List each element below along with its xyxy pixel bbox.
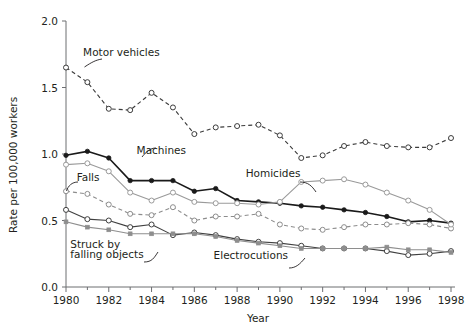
series-motor-vehicles <box>64 65 454 160</box>
injury-rate-line-chart: 0.00.51.01.52.0 198019821984198619881990… <box>0 0 471 330</box>
x-axis-title: Year <box>246 312 270 324</box>
annotation-label: Electrocutions <box>214 249 288 261</box>
data-point <box>406 145 411 150</box>
data-point <box>299 247 303 251</box>
data-point <box>107 156 111 160</box>
data-point <box>64 65 69 70</box>
data-point <box>150 232 154 236</box>
data-point <box>363 182 368 187</box>
data-point <box>406 198 411 203</box>
annotation-label: Motor vehicles <box>83 46 160 58</box>
y-tick-label: 0.5 <box>41 215 58 227</box>
data-point <box>277 199 282 204</box>
data-point <box>427 145 432 150</box>
data-point <box>363 222 368 227</box>
x-tick-label: 1982 <box>95 294 122 306</box>
series-line <box>66 68 451 158</box>
data-point <box>342 177 347 182</box>
data-point <box>149 198 154 203</box>
data-point <box>64 220 68 224</box>
data-point <box>170 105 175 110</box>
data-point <box>85 80 90 85</box>
y-tick-label: 0.0 <box>41 281 58 293</box>
data-point <box>406 248 410 252</box>
data-point <box>428 248 432 252</box>
data-point <box>235 214 240 219</box>
data-point <box>64 189 69 194</box>
data-point <box>106 218 111 223</box>
annotation-label: Machines <box>137 144 186 156</box>
data-point <box>128 178 132 182</box>
data-point <box>427 222 432 227</box>
data-point <box>128 232 132 236</box>
x-tick-label: 1996 <box>395 294 422 306</box>
data-point <box>256 202 261 207</box>
data-point <box>384 190 389 195</box>
y-tick-label: 2.0 <box>41 15 58 27</box>
leader-line <box>144 252 158 262</box>
data-point <box>64 162 69 167</box>
data-point <box>149 178 153 182</box>
data-point <box>149 90 154 95</box>
x-tick-label: 1990 <box>267 294 294 306</box>
data-point <box>192 189 196 193</box>
y-axis-title: Rate per 100,000 workers <box>7 97 19 233</box>
x-tick-label: 1994 <box>352 294 379 306</box>
leader-line <box>85 59 103 67</box>
data-point <box>171 232 175 236</box>
data-point <box>235 201 240 206</box>
data-point <box>363 210 367 214</box>
chart-container: 0.00.51.01.52.0 198019821984198619881990… <box>0 0 471 330</box>
data-point <box>214 186 218 190</box>
data-point <box>406 253 411 258</box>
x-tick-label: 1986 <box>181 294 208 306</box>
data-point <box>192 132 197 137</box>
data-point <box>128 190 133 195</box>
data-point <box>214 235 218 239</box>
data-point <box>213 214 218 219</box>
data-point <box>170 190 175 195</box>
data-point <box>277 222 282 227</box>
data-point <box>149 213 154 218</box>
data-point <box>256 211 261 216</box>
x-tick-label: 1988 <box>224 294 251 306</box>
data-point <box>278 244 282 248</box>
data-point <box>363 140 368 145</box>
data-point <box>406 221 411 226</box>
data-point <box>342 247 346 251</box>
data-point <box>385 245 389 249</box>
data-point <box>384 222 389 227</box>
data-point <box>149 222 154 227</box>
data-point <box>107 228 111 232</box>
data-point <box>213 125 218 130</box>
y-tick-label: 1.0 <box>41 148 58 160</box>
x-axis-tick-labels: 1980198219841986198819901992199419961998 <box>53 294 465 306</box>
data-point <box>321 247 325 251</box>
data-point <box>299 226 304 231</box>
data-point <box>85 225 89 229</box>
data-point <box>364 247 368 251</box>
x-axis-ticks <box>66 287 451 292</box>
data-point <box>449 222 454 227</box>
data-point <box>342 144 347 149</box>
data-point <box>85 149 89 153</box>
y-axis-tick-labels: 0.00.51.01.52.0 <box>41 15 58 293</box>
series-annotations: Motor vehiclesMachinesFallsHomicidesStru… <box>70 46 300 261</box>
data-point <box>384 144 389 149</box>
data-point <box>320 227 325 232</box>
data-point <box>235 124 240 129</box>
data-point <box>299 155 304 160</box>
data-point <box>128 225 133 230</box>
data-point <box>320 153 325 158</box>
data-point <box>385 214 389 218</box>
annotation-label: Falls <box>77 171 100 183</box>
data-point <box>85 191 90 196</box>
data-point <box>192 218 197 223</box>
data-point <box>449 136 454 141</box>
x-tick-label: 1998 <box>438 294 465 306</box>
x-tick-label: 1984 <box>138 294 165 306</box>
data-point <box>106 202 111 207</box>
y-tick-label: 1.5 <box>41 82 58 94</box>
data-point <box>235 239 239 243</box>
data-point <box>85 161 90 166</box>
